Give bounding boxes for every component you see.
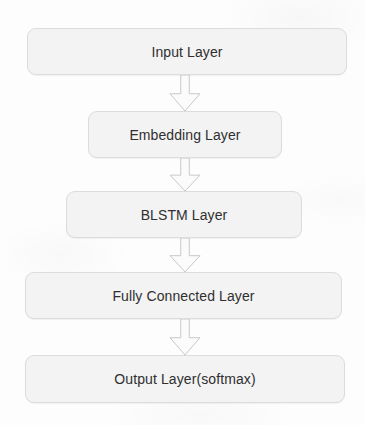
- node-fully-connected-layer[interactable]: Fully Connected Layer: [25, 272, 342, 319]
- node-blstm-layer[interactable]: BLSTM Layer: [66, 191, 302, 238]
- node-input-layer[interactable]: Input Layer: [27, 28, 347, 75]
- block-arrow-down-icon: [168, 319, 202, 355]
- diagram-canvas: Input Layer Embedding Layer BLSTM Layer …: [0, 0, 365, 425]
- node-output-layer[interactable]: Output Layer(softmax): [25, 355, 345, 403]
- node-label: Fully Connected Layer: [112, 288, 254, 304]
- node-label: Input Layer: [151, 44, 222, 60]
- node-embedding-layer[interactable]: Embedding Layer: [88, 111, 282, 158]
- block-arrow-down-icon: [168, 75, 202, 111]
- node-label: BLSTM Layer: [141, 207, 228, 223]
- block-arrow-down-icon: [168, 158, 202, 191]
- node-label: Embedding Layer: [129, 127, 240, 143]
- node-label: Output Layer(softmax): [114, 371, 255, 387]
- block-arrow-down-icon: [168, 238, 202, 272]
